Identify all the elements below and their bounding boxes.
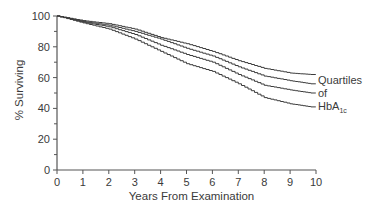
y-tick-label: 0 bbox=[44, 164, 50, 176]
x-axis-ticks: 012345678910 bbox=[54, 170, 322, 188]
survival-curve-3 bbox=[57, 16, 316, 93]
annotation-subscript: 1c bbox=[339, 107, 347, 114]
x-tick-label: 8 bbox=[261, 176, 267, 188]
annotation-line-of: of bbox=[318, 87, 328, 99]
x-tick-label: 2 bbox=[106, 176, 112, 188]
x-tick-label: 6 bbox=[209, 176, 215, 188]
x-tick-label: 5 bbox=[183, 176, 189, 188]
x-tick-label: 9 bbox=[287, 176, 293, 188]
survival-chart: 020406080100 012345678910 Quartiles of H… bbox=[0, 0, 370, 215]
x-tick-label: 3 bbox=[132, 176, 138, 188]
x-tick-label: 10 bbox=[310, 176, 322, 188]
x-axis-label: Years From Examination bbox=[129, 190, 255, 202]
y-tick-label: 20 bbox=[38, 133, 50, 145]
y-tick-label: 100 bbox=[32, 10, 50, 22]
y-axis-label: % Surviving bbox=[13, 60, 25, 121]
y-tick-label: 60 bbox=[38, 72, 50, 84]
y-axis-ticks: 020406080100 bbox=[32, 10, 57, 176]
annotation-hba: HbA bbox=[318, 100, 340, 112]
survival-curve-4 bbox=[57, 16, 316, 107]
quartiles-annotation: Quartiles of HbA1c bbox=[318, 74, 363, 114]
annotation-line-quartiles: Quartiles bbox=[318, 74, 363, 86]
annotation-line-hba1c: HbA1c bbox=[318, 100, 347, 114]
x-tick-label: 4 bbox=[158, 176, 164, 188]
x-tick-label: 1 bbox=[80, 176, 86, 188]
y-tick-label: 80 bbox=[38, 41, 50, 53]
y-tick-label: 40 bbox=[38, 102, 50, 114]
x-tick-label: 0 bbox=[54, 176, 60, 188]
survival-curves bbox=[57, 16, 316, 107]
x-tick-label: 7 bbox=[235, 176, 241, 188]
